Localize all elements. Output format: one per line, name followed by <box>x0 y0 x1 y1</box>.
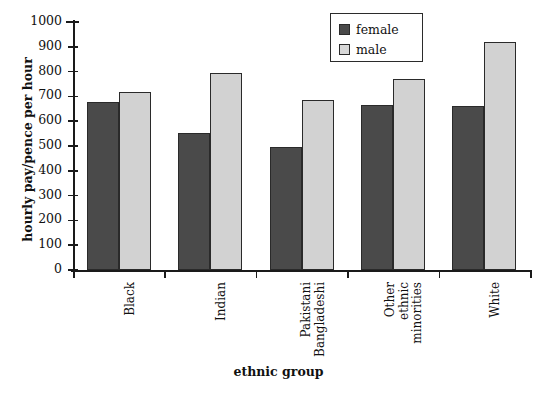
x-axis-line <box>71 270 532 272</box>
y-tick-label-500: 500 <box>22 139 62 151</box>
bar-male-4 <box>484 42 516 270</box>
x-tick-3 <box>347 270 349 278</box>
bar-male-1 <box>210 73 242 270</box>
y-tick-label-1000: 1000 <box>22 15 62 27</box>
chart-legend: female male <box>330 13 423 62</box>
plot-area <box>73 22 530 270</box>
y-tick-label-0: 0 <box>22 263 62 275</box>
y-tick-label-600: 600 <box>22 114 62 126</box>
y-tick-label-200: 200 <box>22 213 62 225</box>
y-axis-tick-labels: 01002003004005006007008009001000 <box>18 0 62 394</box>
bar-male-2 <box>302 100 334 270</box>
x-tick-4 <box>439 270 441 278</box>
y-tick-label-400: 400 <box>22 164 62 176</box>
legend-item-female: female <box>339 19 422 39</box>
x-axis-title: ethnic group <box>0 364 557 379</box>
bar-female-3 <box>361 105 393 270</box>
x-tick-5 <box>530 270 532 278</box>
y-tick-label-900: 900 <box>22 40 62 52</box>
y-tick-label-800: 800 <box>22 65 62 77</box>
x-tick-0 <box>73 270 75 278</box>
legend-item-male: male <box>339 39 422 59</box>
bar-female-1 <box>178 133 210 270</box>
y-tick-label-700: 700 <box>22 89 62 101</box>
male-swatch-icon <box>339 44 350 55</box>
y-tick-label-300: 300 <box>22 189 62 201</box>
bar-chart-figure: hourly pay/pence per hour 01002003004005… <box>0 0 557 394</box>
bar-female-2 <box>270 147 302 270</box>
x-tick-2 <box>256 270 258 278</box>
legend-label-female: female <box>356 22 399 37</box>
y-tick-label-100: 100 <box>22 238 62 250</box>
bar-female-4 <box>452 106 484 270</box>
bar-male-3 <box>393 79 425 270</box>
x-tick-1 <box>164 270 166 278</box>
legend-label-male: male <box>356 42 387 57</box>
bar-male-0 <box>119 92 151 270</box>
bar-female-0 <box>87 102 119 270</box>
female-swatch-icon <box>339 24 350 35</box>
